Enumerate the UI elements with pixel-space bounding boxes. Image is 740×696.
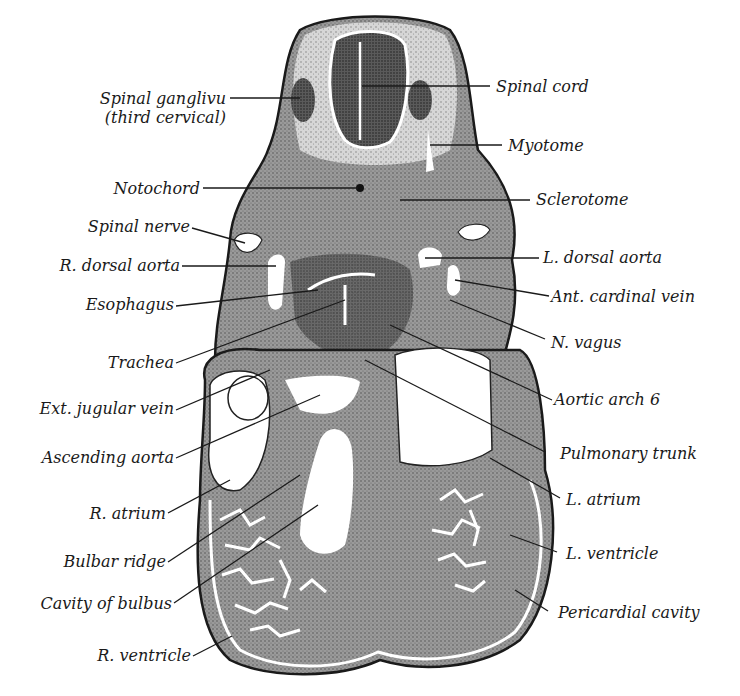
label-spinal-cord: Spinal cord: [496, 78, 589, 96]
label-spinal-ganglion-line1: Spinal ganglivu: [100, 89, 226, 108]
label-ext-jugular-vein: Ext. jugular vein: [40, 400, 174, 418]
label-spinal-nerve: Spinal nerve: [88, 218, 190, 236]
embryo-section-figure: Spinal ganglivu (third cervical) Notocho…: [0, 0, 740, 696]
heart-region: [198, 348, 553, 674]
label-ascending-aorta: Ascending aorta: [42, 449, 174, 467]
label-l-ventricle: L. ventricle: [566, 545, 658, 563]
label-r-dorsal-aorta: R. dorsal aorta: [60, 257, 180, 275]
label-spinal-ganglion: Spinal ganglivu (third cervical): [100, 89, 226, 127]
label-r-ventricle: R. ventricle: [97, 647, 191, 665]
label-l-atrium: L. atrium: [566, 491, 641, 509]
label-l-dorsal-aorta: L. dorsal aorta: [543, 249, 662, 267]
label-notochord: Notochord: [114, 180, 200, 198]
label-ant-cardinal-vein: Ant. cardinal vein: [551, 288, 695, 306]
label-pericardial-cavity: Pericardial cavity: [558, 604, 700, 622]
label-r-atrium: R. atrium: [90, 505, 166, 523]
label-sclerotome: Sclerotome: [536, 191, 629, 209]
label-trachea: Trachea: [108, 354, 174, 372]
label-bulbar-ridge: Bulbar ridge: [64, 553, 166, 571]
label-pulmonary-trunk: Pulmonary trunk: [560, 445, 697, 463]
label-cavity-of-bulbus: Cavity of bulbus: [40, 595, 172, 613]
label-aortic-arch-6: Aortic arch 6: [554, 391, 660, 409]
label-n-vagus: N. vagus: [551, 334, 621, 352]
label-esophagus: Esophagus: [86, 296, 174, 314]
label-myotome: Myotome: [508, 137, 584, 155]
label-spinal-ganglion-line2: (third cervical): [100, 108, 226, 127]
